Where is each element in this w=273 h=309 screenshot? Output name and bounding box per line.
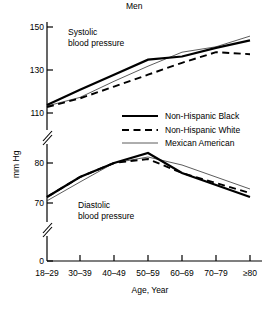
y-tick-label-80: 80 — [21, 158, 44, 168]
y-tick-label-110: 110 — [21, 108, 44, 118]
y-tick-label-130: 130 — [21, 65, 44, 75]
x-axis — [47, 255, 262, 261]
y-tick-label-150: 150 — [21, 22, 44, 32]
x-axis-label: Age, Year — [110, 285, 190, 295]
blood-pressure-chart: Men mm Hg 150 130 110 80 70 0 Systolic b… — [0, 0, 273, 309]
y-axis-label: mm Hg — [11, 151, 21, 178]
legend-label-non-hispanic-white: Non-Hispanic White — [165, 125, 240, 135]
chart-title: Men — [126, 2, 143, 12]
legend-label-non-hispanic-black: Non-Hispanic Black — [165, 111, 239, 121]
systolic-annotation-line2: blood pressure — [68, 39, 124, 49]
diastolic-annotation-line1: Diastolic — [78, 201, 110, 211]
axis-break-upper-icon — [43, 130, 52, 145]
y-tick-label-70: 70 — [21, 198, 44, 208]
x-tick-label-80-plus: ≥80 — [228, 268, 272, 278]
axis-break-lower-icon — [43, 222, 52, 237]
systolic-annotation-line1: Systolic — [68, 28, 97, 38]
y-tick-label-0: 0 — [21, 256, 44, 266]
diastolic-annotation-line2: blood pressure — [78, 212, 134, 222]
series-line-non-hispanic-black-systolic — [47, 40, 250, 105]
legend-label-mexican-american: Mexican American — [165, 138, 234, 148]
